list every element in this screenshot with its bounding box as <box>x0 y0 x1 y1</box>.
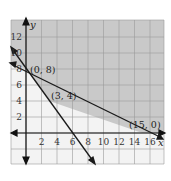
y-tick: 8 <box>16 64 22 74</box>
y-tick: 12 <box>11 32 22 42</box>
y-tick: 10 <box>11 48 23 58</box>
x-axis-label: x <box>158 137 164 148</box>
point-label-0-8: (0, 8) <box>30 64 56 75</box>
x-tick: 10 <box>98 137 110 147</box>
x-tick: 8 <box>85 137 91 147</box>
y-tick: 4 <box>16 96 22 106</box>
point-label-15-0: (15, 0) <box>129 119 161 130</box>
x-tick: 4 <box>54 137 60 147</box>
x-tick: 12 <box>113 137 124 147</box>
x-tick: 6 <box>70 137 76 147</box>
x-tick: 14 <box>129 137 141 147</box>
y-tick: 6 <box>16 80 22 90</box>
graph: 2 4 6 8 10 12 14 16 2 4 6 8 10 12 y x (0… <box>0 0 171 181</box>
x-tick: 16 <box>144 137 156 147</box>
y-tick: 2 <box>16 112 22 122</box>
shaded-region-left <box>11 20 26 69</box>
x-tick: 2 <box>39 137 45 147</box>
point-label-3-4: (3, 4) <box>51 90 77 101</box>
y-axis-label: y <box>29 19 36 30</box>
y-axis-arrow-up <box>23 18 29 25</box>
